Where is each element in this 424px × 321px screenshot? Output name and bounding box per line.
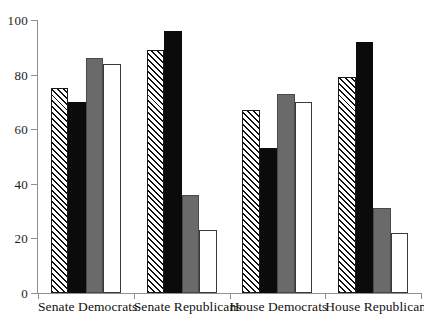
bar — [182, 195, 200, 293]
bar — [103, 64, 121, 293]
y-axis-line — [37, 20, 38, 294]
y-axis-tick — [31, 20, 38, 21]
plot-area: 020406080100 Senate DemocratsSenate Repu… — [0, 0, 424, 321]
y-axis-tick-label: 20 — [0, 232, 28, 245]
bar — [164, 31, 182, 293]
x-axis-category-label: House Republicans — [325, 299, 421, 315]
bar — [373, 208, 391, 293]
x-axis-category-label: Senate Democrats — [38, 299, 134, 315]
y-axis-tick — [31, 75, 38, 76]
x-axis-category-label: House Democrats — [230, 299, 326, 315]
y-axis-tick — [31, 238, 38, 239]
y-axis-tick-label: 60 — [0, 123, 28, 136]
bar — [391, 233, 409, 293]
bar — [242, 110, 260, 293]
y-axis-tick-label: 40 — [0, 178, 28, 191]
bar — [147, 50, 165, 293]
bar — [68, 102, 86, 293]
bar-chart: 020406080100 Senate DemocratsSenate Repu… — [0, 0, 424, 321]
y-axis-tick-label: 100 — [0, 14, 28, 27]
bar — [199, 230, 217, 293]
bar — [86, 58, 104, 293]
bar — [51, 88, 69, 293]
bar — [356, 42, 374, 293]
bar — [338, 77, 356, 293]
y-axis-tick-label: 0 — [0, 287, 28, 300]
y-axis-tick-label: 80 — [0, 69, 28, 82]
y-axis-tick — [31, 129, 38, 130]
x-axis-line — [37, 293, 421, 294]
x-axis-category-label: Senate Republicans — [134, 299, 230, 315]
y-axis-tick — [31, 184, 38, 185]
bar — [277, 94, 295, 293]
bar — [260, 148, 278, 293]
bar — [295, 102, 313, 293]
